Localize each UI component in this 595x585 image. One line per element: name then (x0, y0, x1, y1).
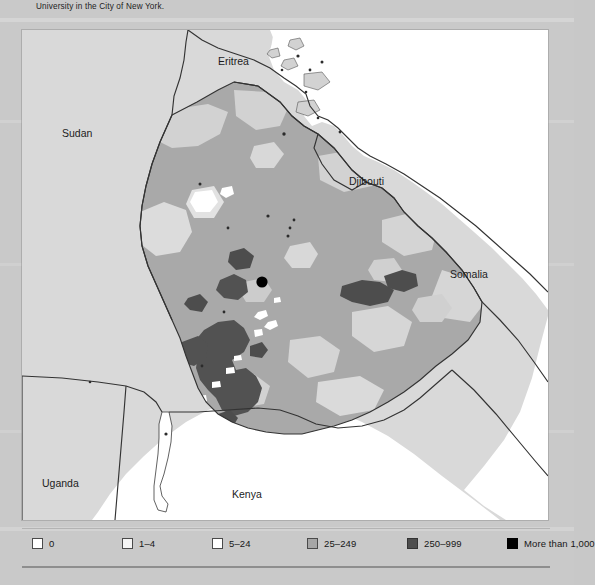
map-label-sudan: Sudan (62, 127, 93, 139)
legend-swatch-icon (307, 538, 318, 549)
legend-label: 0 (49, 538, 54, 549)
legend-swatch-icon (507, 538, 518, 549)
choropleth-legend: 0 1–4 5–24 25–249 250–999 More than 1,00… (22, 534, 548, 560)
legend-item-1: 1–4 (122, 538, 155, 549)
map-label-somalia: Somalia (450, 268, 488, 280)
choropleth-map: Eritrea Sudan Djibouti Somalia Uganda Ke… (22, 30, 548, 520)
legend-label: 250–999 (424, 538, 462, 549)
map-label-uganda: Uganda (42, 477, 79, 489)
legend-item-0: 0 (32, 538, 54, 549)
legend-item-2: 5–24 (212, 538, 251, 549)
page-header-caption: University in the City of New York. (36, 2, 164, 11)
legend-label: 5–24 (229, 538, 251, 549)
legend-divider-bottom (22, 566, 550, 568)
legend-label: 1–4 (139, 538, 155, 549)
legend-swatch-icon (407, 538, 418, 549)
map-label-eritrea: Eritrea (218, 55, 249, 67)
legend-label: More than 1,000 (524, 538, 595, 549)
legend-swatch-icon (212, 538, 223, 549)
legend-item-5: More than 1,000 (507, 538, 595, 549)
legend-swatch-icon (32, 538, 43, 549)
max-class-point (256, 276, 267, 287)
scan-band (0, 18, 574, 22)
map-container: Eritrea Sudan Djibouti Somalia Uganda Ke… (22, 30, 548, 520)
legend-swatch-icon (122, 538, 133, 549)
map-label-kenya: Kenya (232, 488, 262, 500)
legend-label: 25–249 (324, 538, 356, 549)
legend-item-4: 250–999 (407, 538, 462, 549)
map-label-djibouti: Djibouti (349, 175, 384, 187)
legend-divider-top (22, 528, 550, 529)
legend-item-3: 25–249 (307, 538, 356, 549)
